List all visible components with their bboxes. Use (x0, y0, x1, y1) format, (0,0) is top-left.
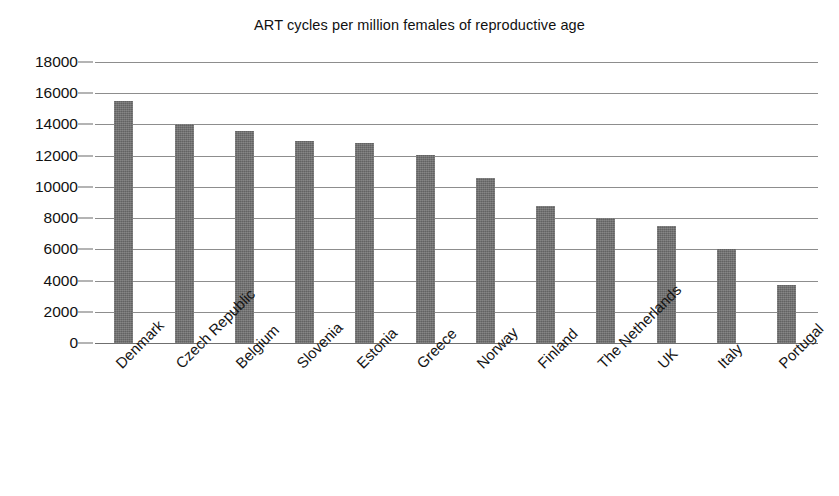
y-axis-tick-label: 12000 (16, 148, 78, 164)
y-axis-tick-mark (78, 343, 93, 344)
y-axis-tick-label: 0 (16, 335, 78, 351)
plot-area (95, 62, 818, 343)
bar[interactable] (114, 101, 133, 343)
gridline (95, 62, 818, 63)
y-axis-tick-mark (78, 186, 93, 187)
y-axis-tick-label: 2000 (16, 304, 78, 320)
y-axis-tick-mark (78, 249, 93, 250)
gridline (95, 249, 818, 250)
y-axis-tick-mark (78, 93, 93, 94)
x-axis-category-label: Italy (714, 340, 745, 371)
y-axis-tick-label: 10000 (16, 179, 78, 195)
x-axis-category-label: UK (654, 345, 681, 372)
gridline (95, 281, 818, 282)
y-axis-tick-mark (78, 155, 93, 156)
gridline (95, 218, 818, 219)
bar[interactable] (355, 143, 374, 343)
chart-title: ART cycles per million females of reprod… (0, 17, 839, 33)
bar[interactable] (476, 178, 495, 343)
bar[interactable] (777, 285, 796, 343)
gridline (95, 156, 818, 157)
bar[interactable] (717, 249, 736, 343)
y-axis-tick-mark (78, 62, 93, 63)
y-axis-tick-label: 8000 (16, 210, 78, 226)
y-axis-tick-label: 16000 (16, 85, 78, 101)
bar[interactable] (416, 155, 435, 343)
bar[interactable] (175, 124, 194, 343)
y-axis-tick-mark (78, 311, 93, 312)
gridline (95, 124, 818, 125)
gridline (95, 312, 818, 313)
y-axis-tick-labels: 1800016000140001200010000800060004000200… (8, 62, 78, 343)
gridline (95, 93, 818, 94)
y-axis-tick-label: 6000 (16, 242, 78, 258)
y-axis-tick-mark (78, 218, 93, 219)
bar[interactable] (596, 218, 615, 343)
y-axis-tick-label: 18000 (16, 54, 78, 70)
bar-chart-figure: ART cycles per million females of reprod… (0, 0, 839, 496)
y-axis-tick-mark (78, 280, 93, 281)
gridline (95, 187, 818, 188)
y-axis-tick-mark (78, 124, 93, 125)
bar[interactable] (536, 206, 555, 343)
bar[interactable] (295, 141, 314, 343)
y-axis-tick-label: 4000 (16, 273, 78, 289)
y-axis-tick-label: 14000 (16, 117, 78, 133)
